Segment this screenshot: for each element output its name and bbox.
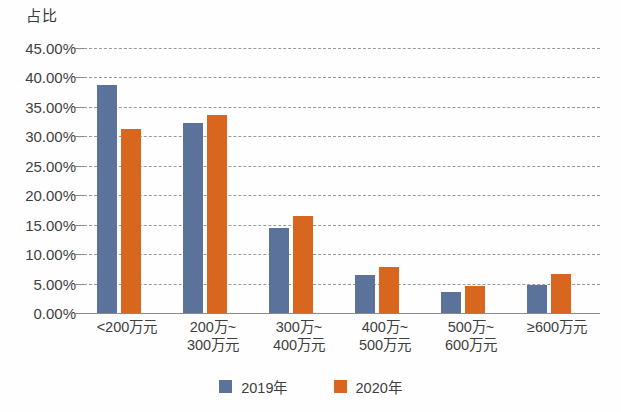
y-axis-tick-mark [75,254,84,255]
y-axis-tick-mark [75,166,84,167]
gridline [84,136,600,137]
y-axis-tick-mark [75,107,84,108]
bar-group [527,48,571,313]
x-axis-tick-label: 400万~ 500万元 [342,318,428,354]
bar-2019年-≥600万元[interactable] [527,285,547,313]
legend-label: 2019年 [241,376,287,397]
bar-group [269,48,313,313]
y-axis-tick-label: 40.00% [25,69,76,86]
bar-2020年-≥600万元[interactable] [551,274,571,313]
x-axis-tick-label: ≥600万元 [514,318,600,336]
x-axis-tick-label: 500万~ 600万元 [428,318,514,354]
y-axis-tick-label: 30.00% [25,128,76,145]
y-axis-tick-mark [75,225,84,226]
y-axis-tick-mark [75,136,84,137]
gridline [84,166,600,167]
gridline [84,254,600,255]
bar-2020年-300万~400万元[interactable] [293,216,313,313]
bar-group [355,48,399,313]
y-axis-tick-label: 15.00% [25,216,76,233]
gridline [84,284,600,285]
y-axis-title: 占比 [26,4,57,25]
x-axis-tick-label: 200万~ 300万元 [170,318,256,354]
legend-item-2019年[interactable]: 2019年 [219,376,287,397]
gridline [84,225,600,226]
y-axis-tick-label: 45.00% [25,40,76,57]
gridline [84,195,600,196]
legend-item-2020年[interactable]: 2020年 [334,376,402,397]
plot-area [84,48,600,313]
y-axis-tick-label: 25.00% [25,157,76,174]
y-axis-tick-label: 0.00% [33,305,76,322]
y-axis-tick-label: 5.00% [33,275,76,292]
bar-2019年-200万~300万元[interactable] [183,123,203,313]
x-axis-tick-labels: <200万元200万~ 300万元300万~ 400万元400万~ 500万元5… [84,318,600,370]
bar-group [97,48,141,313]
y-axis-tick-mark [75,284,84,285]
y-axis-tick-label: 10.00% [25,246,76,263]
y-axis-tick-mark [75,195,84,196]
bar-group [183,48,227,313]
x-axis-tick-label: <200万元 [84,318,170,336]
chart-legend: 2019年2020年 [0,376,621,397]
bar-2019年-<200万元[interactable] [97,85,117,313]
gridline [84,48,600,49]
gridline [84,107,600,108]
bar-2020年-400万~500万元[interactable] [379,267,399,313]
bar-2019年-400万~500万元[interactable] [355,275,375,313]
bar-2020年-200万~300万元[interactable] [207,115,227,313]
x-axis-baseline [84,313,600,314]
bar-2019年-300万~400万元[interactable] [269,228,289,313]
bar-2020年-500万~600万元[interactable] [465,286,485,313]
legend-label: 2020年 [356,376,402,397]
y-axis-tick-mark [75,48,84,49]
x-axis-tick-label: 300万~ 400万元 [256,318,342,354]
bar-2020年-<200万元[interactable] [121,129,141,313]
y-axis-tick-mark [75,77,84,78]
bar-group [441,48,485,313]
y-axis-tick-labels: 45.00%40.00%35.00%30.00%25.00%20.00%15.0… [0,48,76,313]
y-axis-tick-label: 35.00% [25,98,76,115]
y-axis-tick-label: 20.00% [25,187,76,204]
legend-swatch-icon [334,380,347,393]
bar-chart: 占比 45.00%40.00%35.00%30.00%25.00%20.00%1… [0,0,621,412]
bar-2019年-500万~600万元[interactable] [441,292,461,313]
y-axis-tick-mark [75,313,84,314]
gridline [84,77,600,78]
legend-swatch-icon [219,380,232,393]
